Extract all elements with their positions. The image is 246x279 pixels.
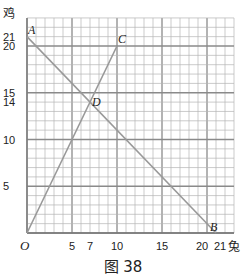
y-axis-title: 鸡 — [3, 6, 15, 21]
grid — [27, 18, 234, 233]
data-lines — [27, 37, 216, 233]
line-AB — [27, 37, 216, 233]
x-tick-label: 15 — [156, 240, 168, 252]
point-label-C: C — [118, 32, 127, 46]
point-label-A: A — [27, 23, 36, 37]
origin-label: O — [20, 238, 30, 253]
chart: 571015202151014152021O鸡兔ABCD — [0, 0, 246, 279]
y-tick-label: 5 — [3, 180, 9, 192]
x-tick-label: 7 — [87, 240, 93, 252]
y-tick-label: 15 — [3, 87, 15, 99]
x-tick-label: 21 — [214, 240, 226, 252]
figure-caption: 图 38 — [0, 255, 246, 276]
x-axis-title: 兔 — [228, 239, 240, 254]
x-tick-label: 10 — [111, 240, 123, 252]
point-label-D: D — [91, 95, 101, 109]
y-tick-label: 10 — [3, 134, 15, 146]
y-tick-label: 21 — [3, 31, 15, 43]
point-label-B: B — [210, 220, 218, 234]
x-tick-label: 5 — [69, 240, 75, 252]
x-tick-label: 20 — [196, 240, 208, 252]
